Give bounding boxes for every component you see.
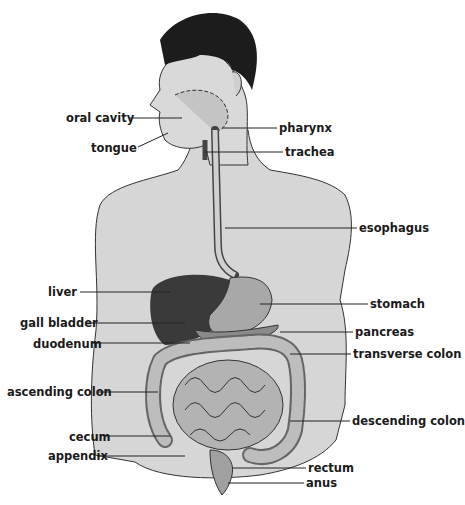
label-pancreas: pancreas: [355, 325, 414, 339]
label-anus: anus: [306, 476, 337, 490]
label-rectum: rectum: [308, 461, 354, 475]
label-gall-bladder: gall bladder: [20, 316, 98, 330]
label-stomach: stomach: [370, 297, 425, 311]
label-trachea: trachea: [285, 145, 335, 159]
label-descending-colon: descending colon: [352, 414, 465, 428]
label-oral-cavity: oral cavity: [66, 111, 134, 125]
label-pharynx: pharynx: [279, 121, 332, 135]
label-duodenum: duodenum: [33, 337, 102, 351]
label-tongue: tongue: [91, 141, 137, 155]
label-esophagus: esophagus: [359, 221, 429, 235]
label-liver: liver: [48, 285, 77, 299]
label-ascending-colon: ascending colon: [7, 385, 112, 399]
label-transverse-colon: transverse colon: [353, 347, 461, 361]
label-cecum: cecum: [69, 430, 111, 444]
label-appendix: appendix: [48, 449, 108, 463]
